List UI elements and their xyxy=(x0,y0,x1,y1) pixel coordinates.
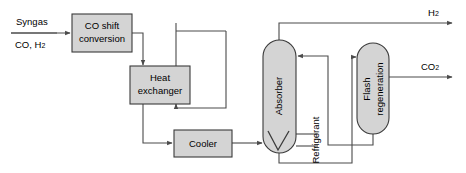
absorber-label: Absorber xyxy=(273,77,284,116)
co-shift-label-line2: conversion xyxy=(79,33,125,44)
process-flow-diagram: CO shift conversion Heat exchanger Coole… xyxy=(0,0,466,173)
stream-label-carbon-dioxide: CO2 xyxy=(421,61,439,72)
stream-label-syngas: Syngas xyxy=(16,16,48,27)
heat-exchanger-label-line1: Heat xyxy=(150,72,170,83)
cooler-label: Cooler xyxy=(189,138,217,149)
flash-regeneration-label-line1: Flash xyxy=(361,77,372,100)
pipe-heat-exchanger-to-cooler xyxy=(143,102,172,143)
stream-label-refrigerant: Refrigerant xyxy=(310,116,321,163)
pipe-co-shift-to-heat-exchanger xyxy=(132,33,143,65)
stream-label-hydrogen: H2 xyxy=(428,7,439,18)
pipe-absorber-to-hydrogen-outlet xyxy=(279,23,452,40)
flow-diagram-svg: CO shift conversion Heat exchanger Coole… xyxy=(0,0,466,173)
stream-label-feed-composition: CO, H2 xyxy=(15,39,45,50)
co-shift-label-line1: CO shift xyxy=(85,20,120,31)
heat-exchanger-label-line2: exchanger xyxy=(138,85,182,96)
flash-regeneration-label-line2: regeneration xyxy=(374,62,385,115)
